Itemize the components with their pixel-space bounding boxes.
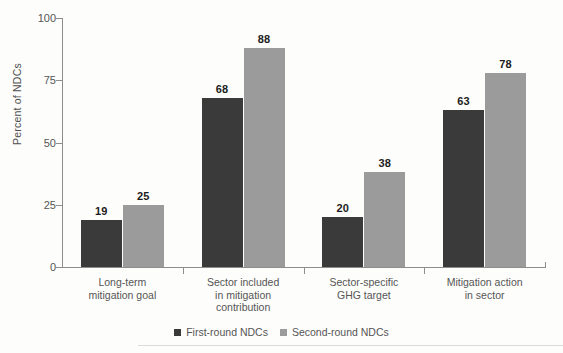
- x-tick-mark: [424, 268, 425, 274]
- bar-value-label: 63: [457, 95, 470, 107]
- bar-1-2: 38: [364, 172, 405, 267]
- y-tick-label: 75: [16, 74, 56, 86]
- bar-1-0: 25: [123, 205, 164, 267]
- bar-value-label: 88: [258, 33, 271, 45]
- bar-value-label: 25: [137, 190, 150, 202]
- legend-item-1: Second-round NDCs: [280, 326, 389, 338]
- legend-swatch-icon: [174, 329, 181, 336]
- x-axis-end-cap: [545, 262, 546, 268]
- bar-1-3: 78: [485, 73, 526, 267]
- y-tick-label: 50: [16, 137, 56, 149]
- bar-1-1: 88: [244, 48, 285, 267]
- category-label-1: Sector includedin mitigationcontribution: [183, 276, 304, 314]
- category-label-2: Sector-specificGHG target: [304, 276, 425, 301]
- bar-group: 6888: [183, 18, 304, 267]
- plot-area: 1925688820386378: [62, 18, 545, 267]
- chart-legend: First-round NDCsSecond-round NDCs: [0, 326, 563, 338]
- x-tick-mark: [183, 268, 184, 274]
- y-tick-label: 25: [16, 199, 56, 211]
- bar-group: 6378: [424, 18, 545, 267]
- category-label-0: Long-termmitigation goal: [62, 276, 183, 301]
- bar-group: 2038: [304, 18, 425, 267]
- y-tick-label: 0: [16, 261, 56, 273]
- bar-0-0: 19: [81, 220, 122, 267]
- bar-value-label: 78: [499, 58, 512, 70]
- category-label-3: Mitigation actionin sector: [424, 276, 545, 301]
- bar-0-3: 63: [443, 110, 484, 267]
- bar-0-2: 20: [322, 217, 363, 267]
- y-axis-title: Percent of NDCs: [11, 39, 23, 169]
- legend-label: First-round NDCs: [186, 326, 268, 338]
- bar-value-label: 68: [216, 83, 229, 95]
- bar-group: 1925: [62, 18, 183, 267]
- x-tick-mark: [304, 268, 305, 274]
- legend-label: Second-round NDCs: [292, 326, 389, 338]
- bar-value-label: 38: [378, 157, 391, 169]
- legend-item-0: First-round NDCs: [174, 326, 268, 338]
- y-tick-label: 100: [16, 12, 56, 24]
- bar-0-1: 68: [202, 98, 243, 267]
- bar-chart: Percent of NDCs 0255075100 1925688820386…: [0, 0, 563, 353]
- bottom-divider: [138, 345, 563, 346]
- bar-value-label: 20: [336, 202, 349, 214]
- legend-swatch-icon: [280, 329, 287, 336]
- bar-value-label: 19: [95, 205, 108, 217]
